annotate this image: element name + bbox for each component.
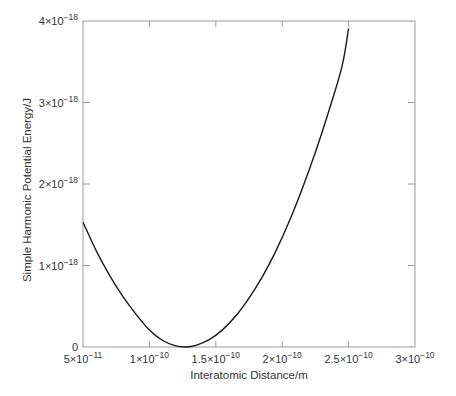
y-tick-labels: 01×10−182×10−183×10−184×10−18 [39,12,78,353]
y-tick-label: 1×10−18 [39,257,78,272]
y-tick-label: 0 [72,341,78,353]
y-tick-label: 4×10−18 [39,12,78,27]
x-tick-label: 1.5×10−10 [192,350,241,365]
x-tick-label: 5×10−11 [64,350,103,365]
x-axis-label: Interatomic Distance/m [190,369,308,381]
y-tick-label: 2×10−18 [39,175,78,190]
x-tick-label: 2×10−10 [263,350,302,365]
x-tick-labels: 5×10−111×10−101.5×10−102×10−102.5×10−103… [64,350,435,365]
potential-energy-curve [83,28,349,347]
x-tick-label: 1×10−10 [130,350,169,365]
x-tick-label: 3×10−10 [395,350,434,365]
chart: 5×10−111×10−101.5×10−102×10−102.5×10−103… [0,0,456,396]
y-axis-label: Simple Harmonic Potential Energy/J [21,98,33,282]
y-tick-label: 3×10−18 [39,94,78,109]
x-tick-label: 2.5×10−10 [324,350,373,365]
